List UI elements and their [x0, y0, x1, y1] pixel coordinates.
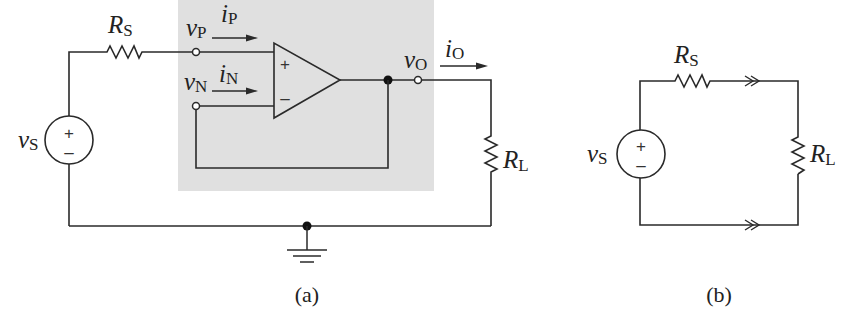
figure-a: + – vS RS vP iP vN iN + –: [18, 0, 529, 307]
b-bottom-wire: [640, 174, 798, 225]
source-top-wire: [69, 52, 104, 116]
source-label-b: vS: [587, 140, 608, 168]
vp-terminal: [193, 49, 200, 56]
source-plus-sign: +: [64, 124, 74, 143]
source-label-a: vS: [18, 126, 39, 154]
opamp-minus-sign: –: [280, 89, 290, 108]
rl-label-b: RL: [809, 140, 836, 169]
ground-icon: [287, 222, 327, 263]
voltage-follower-box: [178, 0, 434, 191]
b-source-top-wire: [640, 81, 672, 130]
io-label: iO: [445, 35, 464, 63]
io-arrow: [440, 63, 488, 70]
voltage-source-b: + –: [617, 130, 665, 178]
opamp-plus-sign: +: [280, 55, 290, 74]
b-source-plus-sign: +: [636, 137, 646, 156]
vn-terminal: [193, 103, 200, 110]
figure-b: + – vS RS RL (b): [587, 41, 836, 307]
rs-label-b: RS: [673, 41, 699, 70]
caption-b: (b): [706, 282, 732, 307]
rs-label-a: RS: [107, 11, 133, 40]
circuit-figure: + – vS RS vP iP vN iN + –: [0, 0, 847, 329]
b-resistor-network: [672, 75, 804, 174]
source-minus-sign: –: [64, 143, 74, 162]
rl-label-a: RL: [502, 146, 529, 175]
voltage-source-a: + –: [45, 116, 93, 164]
caption-a: (a): [295, 282, 319, 307]
b-source-minus-sign: –: [636, 156, 646, 175]
vo-terminal: [415, 77, 422, 84]
